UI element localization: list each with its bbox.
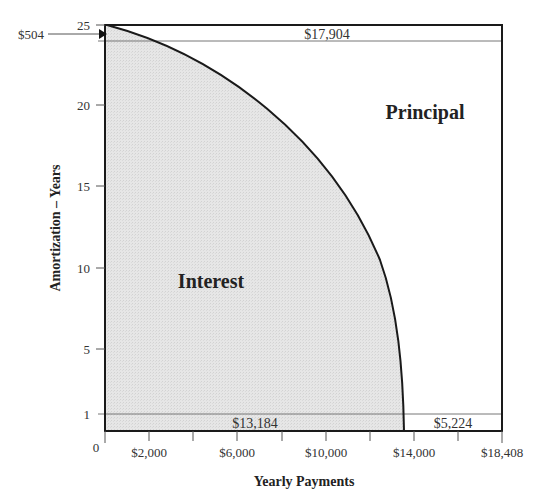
top-principal-label: $17,904 xyxy=(304,27,350,42)
y-tick-15: 15 xyxy=(77,179,90,194)
x-axis-title: Yearly Payments xyxy=(254,474,355,489)
interest-region-label: Interest xyxy=(178,270,245,292)
x-tick-2000: $2,000 xyxy=(131,445,167,460)
y-tick-5: 5 xyxy=(84,342,91,357)
y-tick-10: 10 xyxy=(77,261,90,276)
y-axis-ticks xyxy=(96,25,105,349)
y-tick-20: 20 xyxy=(77,98,90,113)
x-tick-6000: $6,000 xyxy=(219,445,255,460)
x-axis-ticks xyxy=(105,431,502,443)
y-tick-1: 1 xyxy=(84,407,91,422)
amortization-chart: 25 20 15 10 5 1 0 $504 $2,000 $6,000 $10… xyxy=(0,0,541,501)
x-tick-14000: $14,000 xyxy=(393,445,435,460)
bottom-interest-label: $13,184 xyxy=(232,416,278,431)
interest-area xyxy=(105,25,404,431)
x-tick-10000: $10,000 xyxy=(305,445,347,460)
y-tick-25: 25 xyxy=(77,18,90,33)
origin-label: 0 xyxy=(93,440,100,455)
principal-region-label: Principal xyxy=(386,101,465,124)
y-axis-title: Amortization – Years xyxy=(48,164,63,292)
x-tick-18408: $18,408 xyxy=(481,445,523,460)
top-interest-label: $504 xyxy=(18,27,45,42)
bottom-principal-label: $5,224 xyxy=(434,416,473,431)
